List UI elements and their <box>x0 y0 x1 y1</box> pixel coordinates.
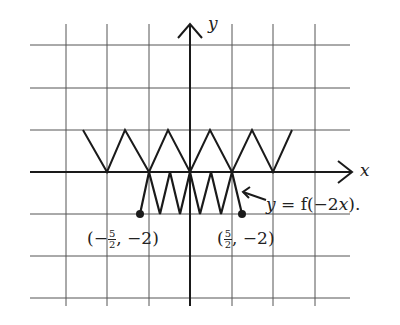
x-axis-label: x <box>360 160 370 180</box>
curve-label-end: ). <box>348 194 360 214</box>
curve-label-eq: = f(−2 <box>276 194 339 214</box>
right-point-fraction: 52 <box>224 229 232 250</box>
curve-label-lhs: y <box>266 194 276 214</box>
left-point-close: , −2) <box>116 228 159 248</box>
left-point-fraction: 52 <box>108 229 116 250</box>
graph-figure <box>0 0 400 325</box>
left-point-open: (− <box>87 228 108 248</box>
callout-arrow-icon <box>243 187 266 200</box>
left-point-label: (−52, −2) <box>87 228 159 250</box>
curve-label-var: x <box>339 194 349 214</box>
right-point-label: (52, −2) <box>217 228 275 250</box>
curve-f-x <box>83 130 292 172</box>
curve-label: y = f(−2x). <box>266 194 360 214</box>
right-point-open: ( <box>217 228 224 248</box>
right-endpoint-dot <box>238 210 246 218</box>
axes <box>30 24 352 306</box>
left-endpoint-dot <box>136 210 144 218</box>
right-point-close: , −2) <box>232 228 275 248</box>
y-axis-label: y <box>208 13 218 33</box>
